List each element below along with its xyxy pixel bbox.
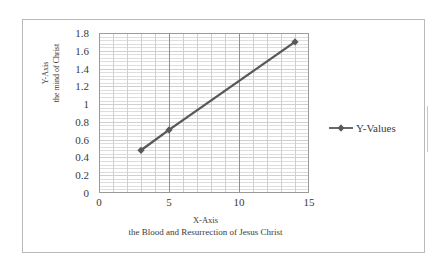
y-axis-tick-label: 0 (84, 187, 90, 199)
grid-major-horizontal (99, 34, 309, 194)
plot-svg (99, 33, 309, 193)
x-axis-tick-label: 10 (234, 196, 245, 208)
chart-frame: Y-Axis the mind of Christ 00.20.40.60.81… (22, 19, 425, 253)
y-axis-tick-labels: 00.20.40.60.811.21.41.61.8 (23, 33, 95, 193)
y-axis-tick-label: 1.6 (75, 45, 89, 57)
x-axis-title: X-Axis the Blood and Resurrection of Jes… (63, 214, 348, 238)
y-axis-tick-label: 0.6 (75, 134, 89, 146)
y-axis-tick-label: 0.2 (75, 169, 89, 181)
x-axis-title-line1: X-Axis (63, 214, 348, 226)
x-axis-tick-labels: 051015 (99, 196, 309, 212)
y-axis-tick-label: 0.8 (75, 116, 89, 128)
y-axis-tick-label: 0.4 (75, 151, 89, 163)
y-axis-tick-label: 1.4 (75, 63, 89, 75)
legend-divider (427, 106, 428, 152)
y-axis-tick-label: 1.8 (75, 27, 89, 39)
x-axis-tick-label: 15 (304, 196, 315, 208)
x-axis-tick-label: 0 (96, 196, 102, 208)
plot-area (99, 33, 309, 193)
chart-legend: Y-Values (328, 116, 420, 140)
legend-label-y-values: Y-Values (356, 122, 396, 134)
grid-minor-horizontal (99, 34, 309, 194)
y-axis-tick-label: 1.2 (75, 80, 89, 92)
x-axis-title-line2: the Blood and Resurrection of Jesus Chri… (63, 226, 348, 238)
legend-marker-icon (328, 122, 354, 134)
y-axis-tick-label: 1 (84, 98, 90, 110)
x-axis-tick-label: 5 (166, 196, 172, 208)
